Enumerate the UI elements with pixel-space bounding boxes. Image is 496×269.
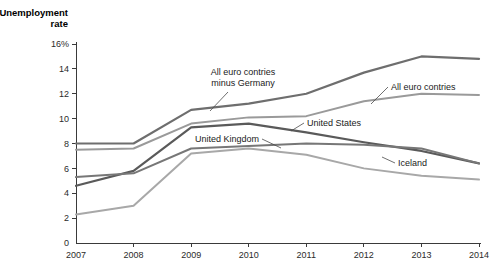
y-axis-title-line-2: rate [51, 18, 68, 29]
y-axis-title-line-1: Unemployment [0, 7, 69, 18]
chart-canvas: Unemployment rate 0246810121416% 2007200… [0, 0, 496, 269]
series-label-leader-line [210, 92, 228, 111]
series-label: United States [307, 118, 362, 128]
series-label-leader-line [262, 139, 281, 148]
y-axis-tick-label: 12 [59, 89, 69, 99]
x-axis-tick-label: 2008 [124, 250, 144, 260]
x-axis-tick-label: 2013 [411, 250, 431, 260]
y-axis-tick-label: 14 [59, 64, 69, 74]
series-label: minus Germany [211, 78, 275, 88]
series-label: United Kingdom [195, 134, 259, 144]
series-label: All euro contries [211, 67, 276, 77]
x-axis: 20072008200920102011201220132014 [66, 243, 489, 260]
series-label: Iceland [398, 158, 427, 168]
x-axis-tick-label: 2011 [297, 250, 316, 260]
y-axis-tick-label: 10 [59, 114, 69, 124]
y-axis-tick-label: 6 [64, 164, 69, 174]
x-axis-tick-label: 2012 [354, 250, 374, 260]
y-axis-tick-label: 4 [64, 188, 69, 198]
series-label-leader-line [382, 157, 395, 163]
y-axis-tick-label: 16% [51, 39, 69, 49]
x-axis-tick-label: 2010 [239, 250, 259, 260]
axis-title-group: Unemployment rate [0, 7, 69, 29]
x-axis-tick-label: 2007 [66, 250, 86, 260]
data-series-group [76, 56, 479, 214]
unemployment-rate-line-chart: Unemployment rate 0246810121416% 2007200… [0, 0, 496, 269]
series-label: All euro contries [391, 82, 456, 92]
series-label-leader-line [291, 123, 304, 131]
y-axis: 0246810121416% [51, 39, 76, 248]
y-axis-tick-label: 2 [64, 213, 69, 223]
series-line [76, 56, 479, 143]
x-axis-tick-label: 2014 [469, 250, 489, 260]
series-label-leader-line [371, 87, 388, 104]
y-axis-tick-label: 8 [64, 139, 69, 149]
x-axis-tick-label: 2009 [181, 250, 201, 260]
y-axis-tick-label: 0 [64, 238, 69, 248]
series-annotations-group: All euro contriesminus GermanyAll euro c… [195, 67, 456, 168]
